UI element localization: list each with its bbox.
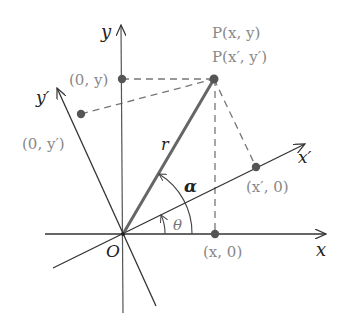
y-axis (121, 25, 123, 313)
y-prime-axis (57, 88, 156, 306)
origin-label: O (106, 241, 120, 261)
point-x-0 (211, 230, 219, 238)
point-0-y (118, 75, 126, 83)
point-x-prime-0 (252, 163, 260, 171)
point-p (210, 75, 219, 84)
y-prime-axis-label: y′ (35, 87, 50, 107)
dashed-p-to-x-prime-axis (214, 79, 256, 167)
y-axis-label: y (100, 21, 112, 42)
radius-label: r (161, 135, 170, 154)
rotation-of-axes-diagram: x y x′ y′ O P(x, y) P(x′, y′) r (0, y) (… (0, 0, 342, 330)
theta-label: θ (173, 216, 182, 234)
proj-0-y-label: (0, y) (69, 71, 108, 89)
proj-x-0-label: (x, 0) (203, 243, 242, 261)
proj-0-y-prime-label: (0, y′) (22, 135, 65, 153)
x-prime-axis-label: x′ (298, 147, 312, 167)
point-0-y-prime (77, 110, 85, 118)
theta-angle-arc (161, 215, 165, 234)
p-xy-label: P(x, y) (212, 24, 260, 42)
proj-x-prime-0-label: (x′, 0) (246, 178, 289, 196)
x-axis-label: x (316, 239, 326, 260)
alpha-label: α (184, 176, 197, 196)
p-xy-prime-label: P(x′, y′) (212, 48, 267, 66)
origin-dot (121, 232, 125, 236)
